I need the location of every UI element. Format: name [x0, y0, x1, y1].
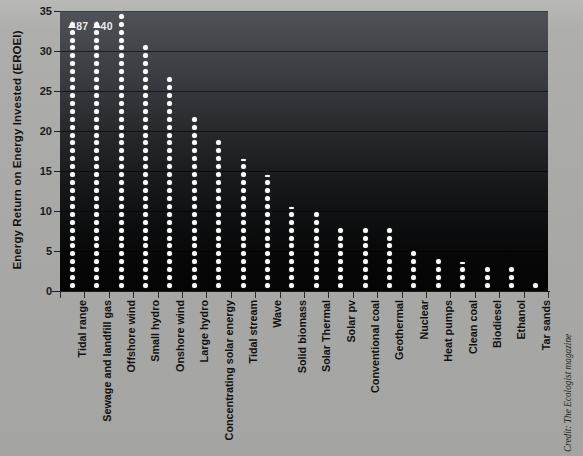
data-dot	[119, 117, 124, 122]
x-tick	[548, 291, 549, 298]
data-dot	[94, 140, 99, 145]
data-dot	[289, 236, 294, 241]
data-dot-partial	[460, 262, 465, 264]
data-dot	[265, 283, 270, 288]
data-dot	[119, 93, 124, 98]
data-dot	[70, 259, 75, 264]
data-dot	[241, 204, 246, 209]
data-dot	[216, 204, 221, 209]
data-dot	[216, 236, 221, 241]
data-dot	[192, 125, 197, 130]
data-dot	[338, 251, 343, 256]
data-dot	[119, 77, 124, 82]
x-tick	[206, 291, 207, 298]
x-label-clean-coal: Clean coal	[467, 300, 479, 354]
data-column	[236, 159, 250, 291]
data-dot	[411, 283, 416, 288]
data-dot	[289, 212, 294, 217]
data-dot	[94, 77, 99, 82]
data-dot	[143, 236, 148, 241]
x-label-solar-pv: Solar pv	[345, 300, 357, 343]
data-dot	[94, 156, 99, 161]
data-column	[163, 77, 177, 291]
y-axis-title: Energy Return on Energy Invested (EROEI)	[2, 0, 32, 300]
data-dot-partial	[289, 207, 294, 209]
data-dot	[167, 196, 172, 201]
data-dot	[119, 172, 124, 177]
data-dot	[167, 85, 172, 90]
x-label-tar-sands: Tar sands	[540, 300, 552, 350]
data-dot	[192, 212, 197, 217]
data-dot	[94, 133, 99, 138]
data-dot	[241, 228, 246, 233]
x-label-small-hydro: Small hydro	[149, 300, 161, 362]
data-dot	[216, 196, 221, 201]
data-dot	[70, 164, 75, 169]
data-dot	[363, 251, 368, 256]
data-dot	[143, 101, 148, 106]
data-dot	[167, 251, 172, 256]
data-dot	[387, 283, 392, 288]
data-dot	[265, 204, 270, 209]
data-dot	[289, 267, 294, 272]
data-dot	[94, 93, 99, 98]
data-dot	[94, 196, 99, 201]
data-dot	[119, 275, 124, 280]
data-dot	[70, 196, 75, 201]
data-dot	[363, 228, 368, 233]
data-dot	[314, 243, 319, 248]
data-dot	[167, 180, 172, 185]
data-dot	[167, 109, 172, 114]
data-dot	[192, 156, 197, 161]
data-dot	[167, 259, 172, 264]
data-dot	[119, 180, 124, 185]
data-dot	[363, 243, 368, 248]
data-dot	[143, 53, 148, 58]
gridline-35	[60, 11, 548, 12]
data-dot-partial	[265, 175, 270, 177]
gridline-25	[60, 91, 548, 92]
x-label-ethanol: Ethanol	[515, 300, 527, 340]
data-dot	[241, 251, 246, 256]
x-tick	[158, 291, 159, 298]
chart-page: Energy Return on Energy Invested (EROEI)…	[0, 0, 583, 456]
data-dot	[436, 275, 441, 280]
data-dot	[289, 275, 294, 280]
data-dot	[216, 275, 221, 280]
data-dot	[143, 196, 148, 201]
data-dot	[167, 133, 172, 138]
data-dot	[265, 267, 270, 272]
x-label-sewage-and-landfill-gas: Sewage and landfill gas	[101, 300, 113, 422]
data-column	[456, 262, 470, 291]
data-dot	[265, 228, 270, 233]
data-dot	[509, 267, 514, 272]
data-dot	[192, 283, 197, 288]
data-dot	[533, 283, 538, 288]
data-dot	[216, 180, 221, 185]
data-dot	[216, 140, 221, 145]
data-dot	[192, 228, 197, 233]
data-dot	[167, 236, 172, 241]
data-dot	[94, 61, 99, 66]
data-dot	[119, 243, 124, 248]
data-dot	[143, 61, 148, 66]
data-dot	[94, 180, 99, 185]
x-label-onshore-wind: Onshore wind	[174, 300, 186, 372]
data-dot	[94, 172, 99, 177]
data-dot	[70, 156, 75, 161]
data-dot	[241, 212, 246, 217]
data-column	[212, 140, 226, 291]
data-dot	[94, 53, 99, 58]
data-dot	[143, 188, 148, 193]
data-dot	[314, 236, 319, 241]
data-column	[529, 283, 543, 291]
x-tick	[182, 291, 183, 298]
data-column	[334, 228, 348, 291]
data-dot	[94, 275, 99, 280]
x-label-solid-biomass: Solid biomass	[296, 300, 308, 373]
data-dot	[509, 275, 514, 280]
data-column: 40	[90, 22, 104, 291]
data-dot	[485, 275, 490, 280]
x-tick	[353, 291, 354, 298]
data-dot	[167, 117, 172, 122]
